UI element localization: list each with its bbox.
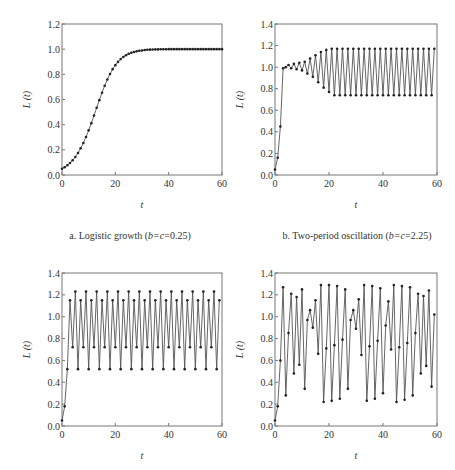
caption-a-param: b=c xyxy=(148,230,164,241)
caption-b-value: =2.25) xyxy=(405,230,431,241)
caption-b-prefix: b. Two-period oscillation ( xyxy=(283,230,389,241)
y-tick-label: 0.0 xyxy=(261,421,274,432)
data-point xyxy=(322,401,325,404)
x-axis-label: t xyxy=(355,450,358,461)
data-point xyxy=(398,346,401,349)
data-point xyxy=(274,419,277,422)
x-tick-label: 0 xyxy=(273,429,278,440)
data-point xyxy=(433,313,436,316)
y-tick-label: 0.4 xyxy=(261,377,274,388)
caption-a-prefix: a. Logistic growth ( xyxy=(69,230,148,241)
data-point xyxy=(344,288,347,291)
data-point xyxy=(430,385,433,388)
data-point xyxy=(290,292,293,295)
data-point xyxy=(306,319,309,322)
data-point xyxy=(409,286,412,289)
data-point xyxy=(336,285,339,288)
data-point xyxy=(371,285,374,288)
data-point xyxy=(393,284,396,287)
x-tick-label: 20 xyxy=(324,429,334,440)
x-tick-label: 40 xyxy=(378,429,388,440)
data-point xyxy=(406,342,409,345)
data-point xyxy=(414,332,417,335)
y-tick-label: 0.8 xyxy=(261,333,274,344)
data-point xyxy=(425,365,428,368)
data-point xyxy=(384,324,387,327)
data-line xyxy=(275,285,434,421)
data-point xyxy=(303,388,306,391)
data-point xyxy=(320,284,323,287)
y-tick-label: 1.0 xyxy=(261,311,274,322)
data-point xyxy=(279,359,282,362)
data-point xyxy=(317,353,320,356)
data-point xyxy=(293,372,296,375)
data-point xyxy=(428,289,431,292)
data-point xyxy=(285,394,288,397)
data-point xyxy=(422,295,425,298)
plot-frame xyxy=(275,273,437,426)
data-point xyxy=(360,354,363,357)
data-point xyxy=(312,326,315,329)
y-tick-label: 1.4 xyxy=(261,268,274,279)
data-point xyxy=(420,372,423,375)
data-point xyxy=(341,338,344,341)
y-tick-label: 0.6 xyxy=(261,355,274,366)
data-point xyxy=(390,348,393,351)
data-point xyxy=(325,347,328,350)
caption-a-value: =0.25) xyxy=(164,230,190,241)
data-point xyxy=(276,405,279,408)
data-point xyxy=(395,401,398,404)
data-point xyxy=(330,400,333,403)
data-point xyxy=(401,285,404,288)
data-point xyxy=(298,364,301,367)
data-point xyxy=(363,284,366,287)
caption-b-param: b=c xyxy=(389,230,405,241)
x-tick-label: 60 xyxy=(432,429,442,440)
data-point xyxy=(347,388,350,391)
data-point xyxy=(357,298,360,301)
data-point xyxy=(295,296,298,299)
data-point xyxy=(368,345,371,348)
data-point xyxy=(411,394,414,397)
data-point xyxy=(339,397,342,400)
data-point xyxy=(333,344,336,347)
data-point xyxy=(417,292,420,295)
caption-b: b. Two-period oscillation (b=c=2.25) xyxy=(262,230,452,241)
data-point xyxy=(349,319,352,322)
data-point xyxy=(376,339,379,342)
data-point xyxy=(379,287,382,290)
data-point xyxy=(282,286,285,289)
data-point xyxy=(387,300,390,303)
data-point xyxy=(309,309,312,312)
data-point xyxy=(382,392,385,395)
data-point xyxy=(352,309,355,312)
data-point xyxy=(314,299,317,302)
data-point xyxy=(301,288,304,291)
data-point xyxy=(355,327,358,330)
data-point xyxy=(328,284,331,287)
y-axis-label: L (t) xyxy=(234,340,246,359)
data-point xyxy=(374,397,377,400)
y-tick-label: 0.2 xyxy=(261,399,274,410)
caption-a: a. Logistic growth (b=c=0.25) xyxy=(40,230,220,241)
data-point xyxy=(366,400,369,403)
data-point xyxy=(287,332,290,335)
y-tick-label: 1.2 xyxy=(261,289,274,300)
data-point xyxy=(403,398,406,401)
